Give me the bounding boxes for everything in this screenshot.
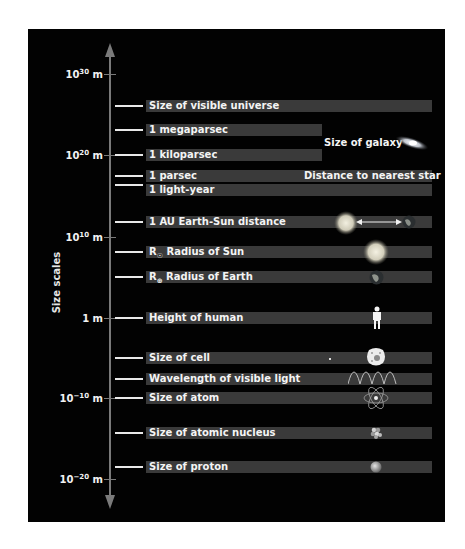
tick-label-1e20: 1020 m	[65, 149, 103, 161]
tick-1e30	[104, 74, 116, 75]
cell-icon	[365, 347, 387, 367]
size-axis	[109, 51, 111, 503]
leader-light	[115, 378, 143, 380]
label-size-of-galaxy: Size of galaxy	[324, 137, 402, 149]
label-universe: Size of visible universe	[149, 100, 279, 112]
tick-label-1e10: 1010 m	[65, 231, 103, 243]
label-light-year: 1 light-year	[149, 184, 214, 196]
tick-1e-20	[104, 479, 116, 480]
tick-label-1e30: 1030 m	[65, 68, 103, 80]
axis-arrow-down-icon	[105, 495, 115, 509]
label-proton: Size of proton	[149, 461, 228, 473]
label-nucleus: Size of atomic nucleus	[149, 427, 276, 439]
label-kiloparsec: 1 kiloparsec	[149, 149, 217, 161]
label-radius-of-sun: R☉ Radius of Sun	[149, 246, 244, 262]
tick-label-1e-20: 10−20 m	[60, 473, 103, 485]
nucleus-icon	[369, 426, 383, 440]
speck-icon	[329, 358, 331, 360]
human-icon	[371, 306, 383, 330]
tick-1e10	[104, 237, 116, 238]
leader-light-year	[115, 184, 143, 186]
label-megaparsec: 1 megaparsec	[149, 124, 228, 136]
sun-icon	[363, 239, 389, 265]
leader-megaparsec	[115, 129, 143, 131]
earth-icon-au	[402, 215, 416, 229]
light-wave-icon	[348, 371, 400, 385]
galaxy-icon	[394, 134, 430, 152]
leader-proton	[115, 466, 143, 468]
label-distance-to-nearest-star: Distance to nearest star	[304, 170, 441, 182]
label-parsec: 1 parsec	[149, 170, 197, 182]
leader-au	[115, 221, 143, 223]
atom-icon	[362, 384, 390, 412]
sun-icon-au	[334, 211, 358, 235]
leader-nucleus	[115, 432, 143, 434]
leader-earth	[115, 276, 143, 278]
label-cell: Size of cell	[149, 352, 210, 364]
leader-atom	[115, 397, 143, 399]
earth-icon	[369, 270, 384, 285]
label-au: 1 AU Earth-Sun distance	[149, 216, 286, 228]
leader-universe	[115, 105, 143, 107]
tick-label-1e-10: 10−10 m	[60, 392, 103, 404]
axis-title: Size scales	[51, 252, 62, 314]
size-scales-panel: Size scales 1030 m 1020 m 1010 m 1 m 10−…	[28, 29, 445, 522]
double-arrow-icon	[356, 217, 402, 227]
leader-parsec	[115, 175, 143, 177]
leader-sun	[115, 251, 143, 253]
proton-icon	[370, 461, 382, 473]
label-human: Height of human	[149, 312, 243, 324]
label-atom: Size of atom	[149, 392, 219, 404]
leader-human	[115, 317, 143, 319]
label-radius-of-earth: R⊕ Radius of Earth	[149, 271, 253, 287]
label-light: Wavelength of visible light	[149, 373, 300, 385]
tick-label-1m: 1 m	[82, 313, 103, 324]
leader-kiloparsec	[115, 154, 143, 156]
leader-cell	[115, 357, 143, 359]
